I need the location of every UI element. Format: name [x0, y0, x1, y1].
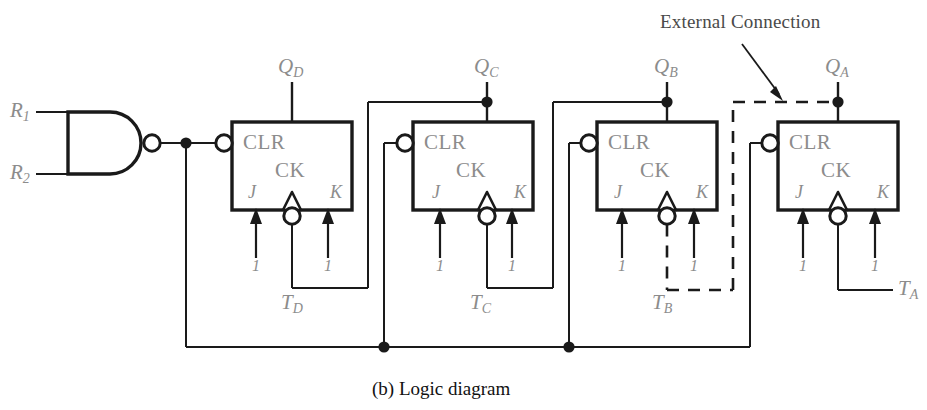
- gate-input-r2-label: R2: [10, 162, 30, 186]
- flipflop-C-k-value: 1: [508, 258, 516, 274]
- flipflop-C-output-label: QC: [474, 56, 499, 80]
- flipflop-C-k-input: [506, 208, 518, 258]
- flipflop-A-k-label: K: [877, 183, 889, 201]
- flipflop-C-clock-label: TC: [470, 292, 491, 316]
- flipflop-D-j-input: [250, 208, 262, 258]
- nand-gate: [36, 112, 160, 174]
- flipflop-A-k-input: [869, 208, 881, 258]
- flipflop-D-clock-bubble: [284, 208, 300, 224]
- flipflop-D-clock-label: TD: [281, 292, 303, 316]
- flipflop-C-clear-label: CLR: [424, 132, 466, 153]
- flipflop-D-k-value: 1: [324, 258, 332, 274]
- flipflop-D-k-label: K: [330, 183, 342, 201]
- flipflop-D-ck-label: CK: [275, 160, 305, 181]
- flipflop-A-j-input: [797, 208, 809, 258]
- flipflop-A-clear-label: CLR: [789, 132, 831, 153]
- flipflop-D-k-input: [322, 208, 334, 258]
- flipflop-B-k-value: 1: [690, 258, 698, 274]
- figure-caption: (b) Logic diagram: [372, 378, 510, 400]
- flipflop-A-ck-label: CK: [821, 160, 851, 181]
- flipflop-A-clear-bubble: [762, 135, 778, 151]
- flipflop-B-q-junction: [661, 96, 672, 107]
- flipflop-D-output-label: QD: [278, 56, 303, 80]
- flipflop-C-j-input: [434, 208, 446, 258]
- flipflop-A-clock-bubble: [830, 208, 846, 224]
- flipflop-B-k-label: K: [696, 183, 708, 201]
- flipflop-D-j-value: 1: [252, 258, 260, 274]
- flipflop-B-k-input: [688, 208, 700, 258]
- flipflop-B-clear-bubble: [581, 135, 597, 151]
- nand-output-bubble: [144, 135, 160, 151]
- flipflop-A-q-junction: [832, 96, 843, 107]
- clock-input-TA-wire: [838, 225, 893, 291]
- flipflop-B-clear-label: CLR: [608, 132, 650, 153]
- flipflop-C-k-label: K: [514, 183, 526, 201]
- flipflop-B-j-value: 1: [618, 258, 626, 274]
- flipflop-C-clock-bubble: [479, 208, 495, 224]
- external-connection-arrow: [742, 44, 783, 101]
- logic-diagram-figure: R1 R2 QD QC QB QA TD TC TB TA CLR CK J K…: [0, 0, 927, 410]
- flipflop-C-j-value: 1: [436, 258, 444, 274]
- flipflop-A-j-value: 1: [799, 258, 807, 274]
- flipflop-B-clock-bubble: [659, 208, 675, 224]
- flipflop-A-j-label: J: [795, 183, 803, 201]
- flipflop-C-q-junction: [481, 96, 492, 107]
- flipflop-B-output-label: QB: [654, 56, 678, 80]
- flipflop-D-j-label: J: [248, 183, 256, 201]
- flipflop-A-clock-label: TA: [898, 278, 918, 302]
- flipflop-C-j-label: J: [432, 183, 440, 201]
- flipflop-B-j-input: [616, 208, 628, 258]
- flipflop-C-ck-label: CK: [456, 160, 486, 181]
- flipflop-B-ck-label: CK: [640, 160, 670, 181]
- flipflop-B-j-label: J: [614, 183, 622, 201]
- flipflop-A-output-label: QA: [825, 56, 849, 80]
- flipflop-B-clock-label: TB: [652, 292, 672, 316]
- circuit-canvas: [0, 0, 927, 410]
- external-connection-label: External Connection: [660, 12, 821, 31]
- flipflop-D-clear-bubble: [216, 135, 232, 151]
- flipflop-A-k-value: 1: [871, 258, 879, 274]
- flipflop-D-clear-label: CLR: [243, 132, 285, 153]
- gate-input-r1-label: R1: [10, 100, 30, 124]
- flipflop-C-clear-bubble: [397, 135, 413, 151]
